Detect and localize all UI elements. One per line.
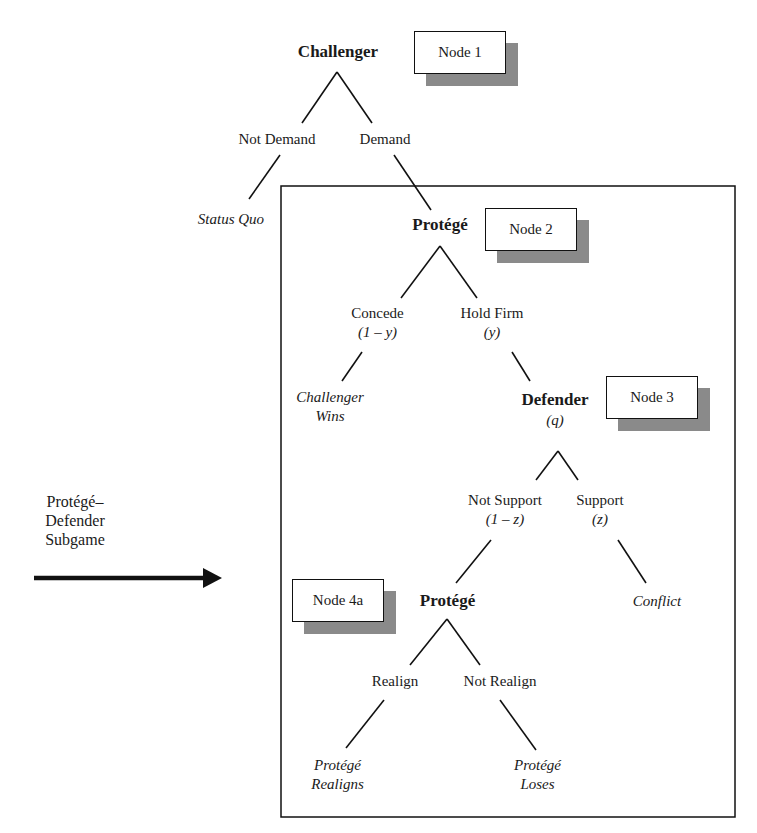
node1-label-box: Node 1: [414, 31, 506, 74]
node1-label: Node 1: [414, 31, 506, 74]
edge-not-demand: Not Demand: [222, 131, 332, 148]
edge-not-support: Not Support: [455, 492, 555, 509]
node4a-player: Protégé: [405, 592, 490, 609]
edge-support: Support: [565, 492, 635, 509]
node3-belief: (q): [530, 412, 580, 429]
subgame-label-line3: Subgame: [30, 530, 120, 549]
outcome-protege-loses-line2: Loses: [500, 776, 575, 793]
node2-label-box: Node 2: [485, 208, 577, 251]
subgame-arrow-head: [203, 568, 222, 588]
node4a-label: Node 4a: [292, 579, 384, 622]
edge-demand: Demand: [350, 131, 420, 148]
node3-player: Defender: [505, 391, 605, 408]
edge-support-prob: (z): [565, 511, 635, 528]
subgame-label-line1: Protégé–: [30, 492, 120, 511]
outcome-challenger-wins-line2: Wins: [290, 408, 370, 425]
edge-concede-prob: (1 – y): [340, 324, 415, 341]
node3-label: Node 3: [606, 376, 698, 419]
node3-label-box: Node 3: [606, 376, 698, 419]
edge-hold-firm-prob: (y): [452, 324, 532, 341]
edge-hold-firm: Hold Firm: [452, 305, 532, 322]
outcome-challenger-wins-line1: Challenger: [290, 389, 370, 406]
node2-player: Protégé: [390, 216, 490, 233]
outcome-protege-realigns-line1: Protégé: [300, 757, 375, 774]
outcome-protege-realigns-line2: Realigns: [300, 776, 375, 793]
edge-realign: Realign: [360, 673, 430, 690]
node4a-label-box: Node 4a: [292, 579, 384, 622]
edge-not-realign: Not Realign: [455, 673, 545, 690]
outcome-protege-loses-line1: Protégé: [500, 757, 575, 774]
node2-label: Node 2: [485, 208, 577, 251]
outcome-status-quo: Status Quo: [186, 211, 276, 228]
edge-concede: Concede: [340, 305, 415, 322]
subgame-label-line2: Defender: [30, 511, 120, 530]
node1-player: Challenger: [288, 43, 388, 60]
outcome-conflict: Conflict: [622, 593, 692, 610]
edge-not-support-prob: (1 – z): [455, 511, 555, 528]
